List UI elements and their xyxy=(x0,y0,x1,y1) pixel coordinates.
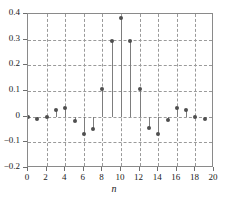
data-point xyxy=(35,117,39,121)
stem-line xyxy=(130,41,131,117)
y-axis-tick-label: 0.4 xyxy=(0,8,20,17)
data-point xyxy=(147,126,151,130)
y-axis-tick xyxy=(23,64,27,65)
x-axis-tick xyxy=(64,167,65,171)
y-axis-tick-label: 0.1 xyxy=(0,85,20,94)
y-axis-tick xyxy=(23,167,27,168)
data-point xyxy=(28,115,30,119)
stem-line xyxy=(112,41,113,117)
gridline-horizontal xyxy=(28,65,212,66)
data-point xyxy=(73,119,77,123)
x-axis-tick-label: 20 xyxy=(201,173,225,182)
plot-frame xyxy=(27,13,213,167)
x-axis-label: n xyxy=(0,183,228,194)
stem-line xyxy=(121,18,122,116)
y-axis-tick xyxy=(23,116,27,117)
data-point xyxy=(175,106,179,110)
figure: 024681012141618200.40.30.20.10−0.1−0.2 n xyxy=(0,0,228,202)
gridline-horizontal xyxy=(28,40,212,41)
x-axis-tick xyxy=(120,167,121,171)
x-axis-tick xyxy=(213,167,214,171)
data-point xyxy=(119,16,123,20)
y-axis-tick-label: 0.2 xyxy=(0,59,20,68)
data-point xyxy=(63,106,67,110)
gridline-horizontal xyxy=(28,91,212,92)
data-point xyxy=(193,115,197,119)
data-point xyxy=(203,117,207,121)
x-axis-tick xyxy=(101,167,102,171)
stem-line xyxy=(140,89,141,116)
x-axis-tick xyxy=(83,167,84,171)
data-point xyxy=(128,39,132,43)
y-axis-tick-label: 0 xyxy=(0,111,20,120)
zero-baseline xyxy=(28,117,212,118)
x-axis-tick xyxy=(176,167,177,171)
y-axis-tick xyxy=(23,141,27,142)
y-axis-tick-label: −0.1 xyxy=(0,136,20,145)
data-point xyxy=(166,118,170,122)
plot-area xyxy=(28,14,212,166)
gridline-horizontal xyxy=(28,142,212,143)
x-axis-tick xyxy=(157,167,158,171)
y-axis-tick-label: 0.3 xyxy=(0,34,20,43)
x-axis-tick xyxy=(194,167,195,171)
data-point xyxy=(82,132,86,136)
data-point xyxy=(156,132,160,136)
stem-line xyxy=(102,89,103,116)
y-axis-tick xyxy=(23,13,27,14)
x-axis-tick xyxy=(139,167,140,171)
y-axis-tick-label: −0.2 xyxy=(0,162,20,171)
data-point xyxy=(110,39,114,43)
data-point xyxy=(54,108,58,112)
data-point xyxy=(184,108,188,112)
x-axis-tick xyxy=(27,167,28,171)
data-point xyxy=(45,115,49,119)
y-axis-tick xyxy=(23,90,27,91)
y-axis-tick xyxy=(23,39,27,40)
data-point xyxy=(91,127,95,131)
x-axis-tick xyxy=(46,167,47,171)
